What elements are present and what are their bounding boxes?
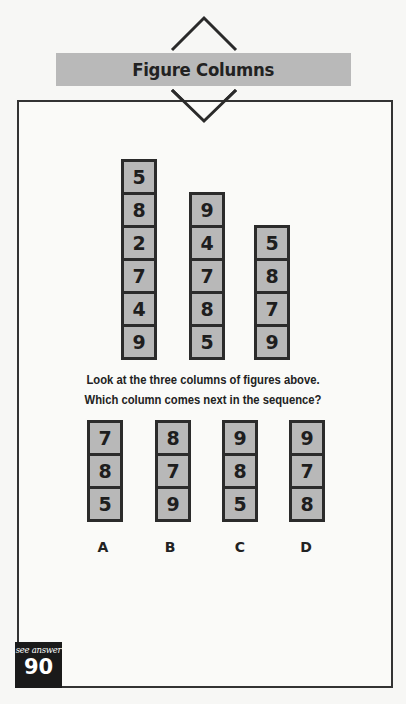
see-answer-caption: see answer: [15, 645, 62, 655]
figure-cell: 5: [192, 327, 222, 357]
option-column-b[interactable]: 8 7 9: [155, 420, 191, 522]
figure-cell: 9: [257, 327, 287, 357]
figure-cell: 7: [192, 261, 222, 291]
question-line-1: Look at the three columns of figures abo…: [20, 370, 385, 390]
figure-cell: 5: [225, 489, 255, 519]
sequence-column-1: 5 8 2 7 4 9: [121, 159, 157, 360]
figure-cell: 8: [158, 423, 188, 453]
figure-cell: 7: [90, 423, 120, 453]
option-label-d[interactable]: D: [291, 539, 321, 555]
figure-cell: 5: [124, 162, 154, 192]
question-line-2: Which column comes next in the sequence?: [20, 390, 385, 410]
figure-cell: 5: [90, 489, 120, 519]
figure-cell: 7: [158, 456, 188, 486]
figure-cell: 4: [124, 294, 154, 324]
figure-cell: 9: [192, 195, 222, 225]
figure-cell: 9: [225, 423, 255, 453]
answer-number: 90: [15, 655, 62, 679]
option-label-c[interactable]: C: [225, 539, 255, 555]
figure-cell: 7: [292, 456, 322, 486]
option-column-d[interactable]: 9 7 8: [289, 420, 325, 522]
figure-cell: 4: [192, 228, 222, 258]
figure-cell: 9: [292, 423, 322, 453]
option-column-a[interactable]: 7 8 5: [87, 420, 123, 522]
sequence-column-2: 9 4 7 8 5: [189, 192, 225, 360]
option-label-a[interactable]: A: [88, 539, 118, 555]
figure-cell: 8: [292, 489, 322, 519]
figure-cell: 8: [257, 261, 287, 291]
figure-cell: 8: [124, 195, 154, 225]
chevron-overlay: [0, 0, 406, 130]
figure-cell: 9: [158, 489, 188, 519]
figure-cell: 9: [124, 327, 154, 357]
option-column-c[interactable]: 9 8 5: [222, 420, 258, 522]
figure-cell: 2: [124, 228, 154, 258]
question-text: Look at the three columns of figures abo…: [20, 370, 385, 410]
option-label-b[interactable]: B: [155, 539, 185, 555]
figure-cell: 8: [90, 456, 120, 486]
figure-cell: 8: [225, 456, 255, 486]
see-answer-badge: see answer 90: [15, 642, 62, 688]
figure-cell: 5: [257, 228, 287, 258]
figure-cell: 7: [257, 294, 287, 324]
figure-cell: 8: [192, 294, 222, 324]
figure-cell: 7: [124, 261, 154, 291]
sequence-column-3: 5 8 7 9: [254, 225, 290, 360]
